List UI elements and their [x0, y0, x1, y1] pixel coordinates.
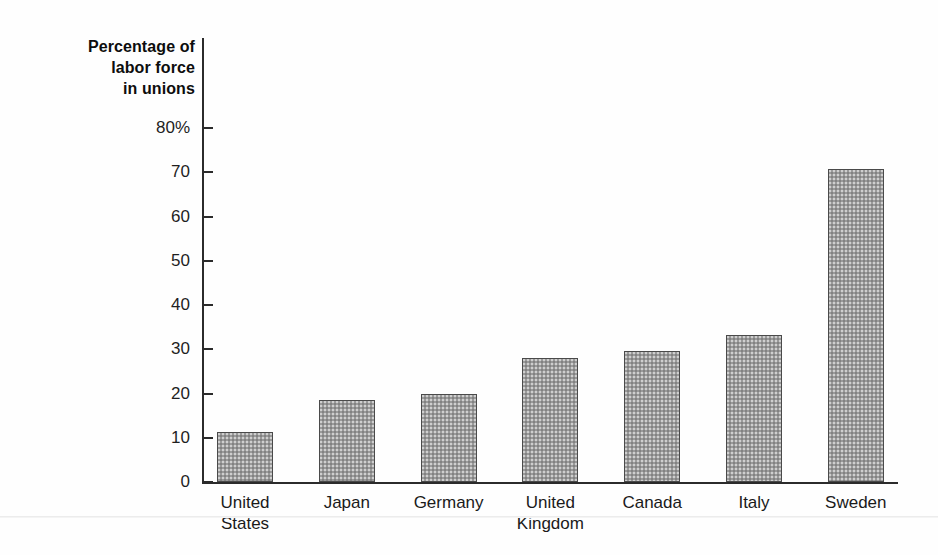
y-tick-label: 60 — [70, 208, 190, 225]
y-tick-label: 70 — [70, 163, 190, 180]
y-tick-mark — [204, 348, 213, 350]
bar-japan — [319, 400, 375, 482]
y-tick-label: 80% — [70, 119, 190, 136]
y-tick-label: 10 — [70, 429, 190, 446]
y-tick-mark — [204, 437, 213, 439]
x-axis-label-sweden: Sweden — [786, 492, 926, 513]
y-tick-mark — [204, 260, 213, 262]
y-axis-title-line-2: labor force — [28, 57, 195, 78]
y-tick-mark — [204, 171, 213, 173]
y-tick-label: 50 — [70, 252, 190, 269]
bar-chart-figure: Percentage of labor force in unions 0102… — [0, 0, 938, 555]
y-tick-mark — [204, 304, 213, 306]
bar-germany — [421, 394, 477, 482]
y-axis-title-line-3: in unions — [28, 78, 195, 99]
y-axis-title: Percentage of labor force in unions — [28, 36, 195, 99]
y-tick-label: 0 — [70, 473, 190, 490]
x-axis-label-line: Sweden — [786, 492, 926, 513]
y-tick-label: 40 — [70, 296, 190, 313]
y-tick-mark — [204, 481, 213, 483]
bar-italy — [726, 335, 782, 482]
y-tick-mark — [204, 216, 213, 218]
bar-united-kingdom — [522, 358, 578, 482]
y-tick-mark — [204, 127, 213, 129]
bar-sweden — [828, 169, 884, 482]
bar-canada — [624, 351, 680, 482]
bar-united-states — [217, 432, 273, 482]
x-axis-line — [202, 482, 898, 484]
y-tick-label: 20 — [70, 385, 190, 402]
scan-artifact-line-soft — [0, 517, 938, 518]
y-axis-title-line-1: Percentage of — [28, 36, 195, 57]
y-tick-label: 30 — [70, 340, 190, 357]
y-tick-mark — [204, 393, 213, 395]
